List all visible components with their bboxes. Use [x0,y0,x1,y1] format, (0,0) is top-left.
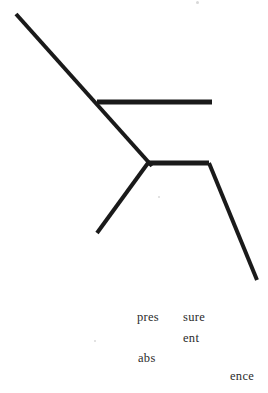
fragment-abs: abs [138,352,156,365]
fragment-pres: pres [137,311,159,324]
scan-speck-top [196,1,199,4]
figure-canvas: pres sure ent abs ence [0,0,268,393]
fragment-ence: ence [230,370,254,383]
fragment-ent: ent [183,332,199,345]
text-fragment-layer: pres sure ent abs ence [0,0,268,393]
fragment-sure: sure [183,311,205,324]
scan-speck-left [94,340,96,342]
scan-speck-middle [158,196,160,198]
